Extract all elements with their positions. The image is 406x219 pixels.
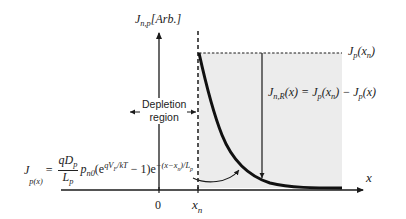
depletion-line2: region	[142, 111, 186, 124]
jp-xn-arg: (x	[358, 44, 367, 58]
recomb-t1-close: ) − J	[335, 85, 358, 99]
y-axis-label: Jn,p[Arb.]	[135, 12, 181, 28]
diff-num-text: qD	[59, 153, 74, 167]
recomb-lhs-arg: (x) = J	[285, 85, 318, 99]
diff-exp1: qVF/kT	[104, 161, 128, 170]
diffusion-equation: Jp(x) = qDp Lp pn0(eqVF/kT − 1)e−(x−xn)/…	[24, 154, 193, 186]
diff-lhs-sub: p(x)	[29, 177, 42, 186]
diff-lhs: J	[24, 163, 29, 178]
diff-num: qDp	[58, 154, 79, 171]
diff-rest: pn0(eqVF/kT − 1)e−(x−xn)/Lp	[80, 161, 193, 178]
depletion-region-label: Depletion region	[141, 98, 187, 124]
x-tick-label-0: 0	[155, 198, 161, 213]
jp-xn-label: Jp(xn)	[348, 44, 375, 60]
recomb-t1-arg: (x	[322, 85, 331, 99]
xn-sub: n	[198, 205, 203, 215]
diff-exp2-sub2: p	[190, 166, 193, 172]
diff-fraction: qDp Lp	[58, 154, 79, 186]
shaded-recombination-region	[199, 53, 342, 188]
recomb-t2-arg: (x)	[363, 85, 376, 99]
diff-p-sub: n0	[86, 170, 94, 179]
recomb-lhs-sub: n,R	[273, 92, 284, 101]
depletion-line1: Depletion	[142, 98, 186, 111]
x-tick-label-xn: xn	[192, 197, 202, 215]
diff-minus-one: − 1)e	[128, 162, 156, 176]
diff-exp2: −(x−xn)/Lp	[156, 161, 193, 170]
diff-den: Lp	[63, 171, 74, 187]
diff-equals: =	[46, 163, 53, 178]
x-axis-label: x	[366, 170, 372, 186]
diff-num-sub: p	[73, 160, 77, 169]
diff-paren: (e	[95, 162, 104, 176]
diff-exp2-text: −(x−x	[156, 161, 178, 170]
diff-exp1-rest: /kT	[117, 161, 128, 170]
y-axis-label-sub: n,p	[140, 19, 150, 28]
y-axis-unit: [Arb.]	[151, 12, 181, 26]
diff-den-sub: p	[69, 177, 73, 186]
jp-xn-close: )	[371, 44, 375, 58]
recombination-equation: Jn,R(x) = Jp(xn) − Jp(x)	[268, 85, 376, 101]
diff-exp2-rest: )/L	[180, 161, 190, 170]
